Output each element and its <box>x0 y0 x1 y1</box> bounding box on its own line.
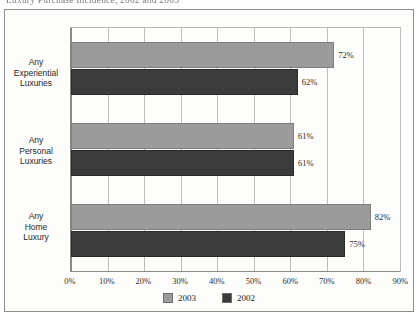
bar-value-home_2002: 75% <box>349 240 365 249</box>
chart-title: Luxury Purchase Incidence, 2002 and 2003 <box>6 0 179 5</box>
bar-value-personal_2003: 61% <box>298 132 314 141</box>
legend-item-2002[interactable]: 2002 <box>222 293 255 303</box>
xtick-10: 10% <box>99 276 115 286</box>
legend-swatch-2003-icon <box>163 293 173 303</box>
bar-experiential_2003 <box>71 42 334 68</box>
bar-value-experiential_2002: 62% <box>302 78 318 87</box>
xtick-0: 0% <box>64 276 75 286</box>
xtick-20: 20% <box>136 276 152 286</box>
category-label-line: Luxury <box>5 232 67 243</box>
bar-value-personal_2002: 61% <box>298 159 314 168</box>
xtick-80: 80% <box>356 276 372 286</box>
bar-personal_2002 <box>71 150 294 176</box>
xtick-60: 60% <box>282 276 298 286</box>
bar-value-home_2003: 82% <box>375 213 391 222</box>
bar-personal_2003 <box>71 123 294 149</box>
legend-item-2003[interactable]: 2003 <box>163 293 196 303</box>
category-label-line: Experiential <box>5 68 67 79</box>
xtick-70: 70% <box>319 276 335 286</box>
bar-home_2003 <box>71 204 371 230</box>
category-label-line: Luxuries <box>5 156 67 167</box>
legend-label-2002: 2002 <box>237 293 255 303</box>
xtick-90: 90% <box>393 276 409 286</box>
category-label-line: Any <box>5 57 67 68</box>
category-label-line: Any <box>5 135 67 146</box>
gridline-80 <box>363 28 364 271</box>
chart-frame: 72%62%61%61%82%75% Any Experiential Luxu… <box>4 9 414 312</box>
legend-swatch-2002-icon <box>222 293 232 303</box>
category-label-line: Luxuries <box>5 78 67 89</box>
bar-home_2002 <box>71 231 345 257</box>
category-label-home: Any Home Luxury <box>5 211 67 243</box>
gridline-90 <box>400 28 401 271</box>
legend-label-2003: 2003 <box>178 293 196 303</box>
category-label-line: Any <box>5 211 67 222</box>
xtick-30: 30% <box>172 276 188 286</box>
bar-experiential_2002 <box>71 69 298 95</box>
category-label-personal: Any Personal Luxuries <box>5 135 67 167</box>
bar-value-experiential_2003: 72% <box>338 51 354 60</box>
xtick-50: 50% <box>246 276 262 286</box>
plot-area: 72%62%61%61%82%75% <box>70 27 401 272</box>
category-label-line: Home <box>5 222 67 233</box>
chart-legend: 2003 2002 <box>5 293 413 303</box>
category-label-experiential: Any Experiential Luxuries <box>5 57 67 89</box>
xtick-40: 40% <box>209 276 225 286</box>
category-label-line: Personal <box>5 146 67 157</box>
